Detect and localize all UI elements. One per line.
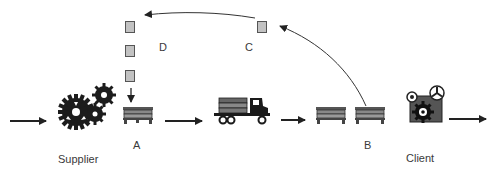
supply-chain-diagram: D C A B Supplier Client	[0, 0, 496, 172]
label-b: B	[364, 140, 371, 151]
gears-icon	[58, 83, 116, 130]
arrow-b-to-c	[280, 26, 366, 106]
arrow-c-to-d	[145, 13, 255, 18]
signal-card-d3	[125, 70, 135, 82]
machine-gears-icon	[407, 86, 444, 123]
signal-card-d1	[125, 21, 135, 33]
label-client: Client	[406, 153, 434, 164]
pallet-stack-icon-b1	[316, 107, 346, 124]
pallet-stack-icon-b2	[355, 107, 385, 124]
pallet-stack-icon-a	[123, 107, 153, 124]
diagram-canvas	[0, 0, 496, 172]
label-c: C	[245, 42, 253, 53]
truck-icon	[214, 98, 270, 124]
signal-card-c	[257, 21, 267, 33]
label-d: D	[159, 42, 167, 53]
label-a: A	[133, 140, 140, 151]
label-supplier: Supplier	[58, 154, 98, 165]
signal-card-d2	[125, 45, 135, 57]
